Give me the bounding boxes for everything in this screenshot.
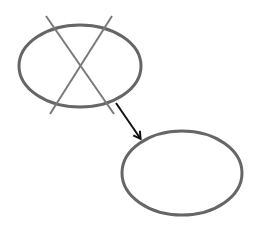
diagram-canvas [0, 0, 259, 232]
new-ellipse-node [122, 131, 242, 215]
arrow-connector [116, 103, 140, 138]
